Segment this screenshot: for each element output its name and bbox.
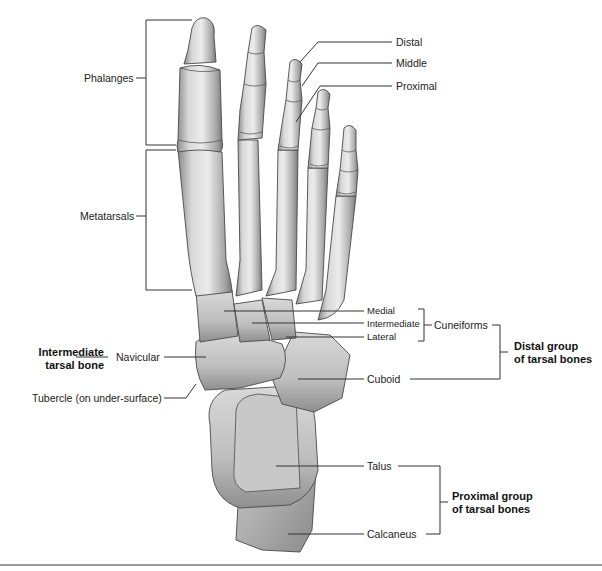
label-cuboid: Cuboid bbox=[367, 373, 400, 385]
label-tubercle: Tubercle (on under-surface) bbox=[32, 392, 162, 404]
group-proximal-line2: of tarsal bones bbox=[452, 503, 533, 516]
bottom-divider bbox=[0, 564, 602, 566]
label-metatarsals: Metatarsals bbox=[80, 210, 134, 222]
metatarsal-1 bbox=[178, 148, 232, 296]
toe2-phalanges bbox=[238, 25, 266, 140]
label-intermediate-cuneiform: Intermediate bbox=[367, 318, 420, 330]
bones bbox=[177, 18, 358, 552]
label-talus: Talus bbox=[367, 460, 392, 472]
group-intermediate-line2: tarsal bone bbox=[8, 359, 104, 372]
label-lateral-cuneiform: Lateral bbox=[367, 331, 396, 343]
label-distal-phalanx: Distal bbox=[396, 36, 422, 48]
group-distal-line2: of tarsal bones bbox=[514, 353, 592, 366]
medial-cuneiform-bone bbox=[196, 290, 238, 342]
label-proximal-phalanx: Proximal bbox=[396, 80, 437, 92]
group-proximal-tarsal: Proximal group of tarsal bones bbox=[452, 490, 533, 516]
label-navicular: Navicular bbox=[116, 351, 160, 363]
group-distal-line1: Distal group bbox=[514, 340, 592, 353]
label-medial-cuneiform: Medial bbox=[367, 305, 395, 317]
label-cuneiforms: Cuneiforms bbox=[434, 319, 488, 331]
label-middle-phalanx: Middle bbox=[396, 57, 427, 69]
hallux-distal-phalanx bbox=[184, 18, 216, 64]
group-intermediate-line1: Intermediate bbox=[8, 346, 104, 359]
hallux-proximal-phalanx bbox=[177, 65, 223, 152]
foot-bones-diagram: Phalanges Metatarsals Intermediate tarsa… bbox=[0, 0, 602, 571]
cuboid-bone bbox=[272, 332, 350, 412]
metatarsal-2 bbox=[236, 140, 262, 296]
metatarsal-3 bbox=[266, 150, 298, 296]
group-proximal-line1: Proximal group bbox=[452, 490, 533, 503]
metatarsal-4 bbox=[296, 168, 328, 304]
group-intermediate-tarsal: Intermediate tarsal bone bbox=[8, 346, 104, 372]
label-phalanges: Phalanges bbox=[84, 72, 134, 84]
toe3-phalanges bbox=[278, 59, 302, 150]
toe5-phalanges bbox=[336, 125, 358, 196]
label-calcaneus: Calcaneus bbox=[367, 528, 417, 540]
foot-skeleton-illustration bbox=[0, 0, 602, 571]
group-distal-tarsal: Distal group of tarsal bones bbox=[514, 340, 592, 366]
